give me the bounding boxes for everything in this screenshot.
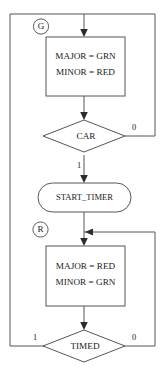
process-box-red-line1: MAJOR = RED (56, 261, 116, 271)
edge-label-timed-true: 1 (33, 333, 37, 342)
flowchart-page: G MAJOR = GRN MINOR = RED CAR 0 1 START_… (0, 0, 168, 372)
state-badge-g-label: G (38, 21, 45, 31)
edge-label-car-false: 0 (132, 123, 136, 132)
process-box-green-line2: MINOR = RED (56, 67, 115, 77)
arrowhead-into-green-box (80, 29, 88, 37)
arrowhead-into-start-timer (80, 175, 88, 183)
process-box-green-line1: MAJOR = GRN (55, 51, 116, 61)
edge-label-car-true: 1 (77, 161, 81, 170)
process-box-red-line2: MINOR = GRN (56, 277, 116, 287)
flowchart-canvas: G MAJOR = GRN MINOR = RED CAR 0 1 START_… (0, 0, 168, 372)
arrowhead-into-timed (80, 322, 88, 330)
state-badge-r-label: R (37, 224, 43, 234)
arrowhead-merge-timed-false (85, 228, 93, 235)
process-box-red (46, 246, 125, 306)
decision-diamond-car-label: CAR (77, 131, 97, 141)
arrowhead-into-red-box (80, 238, 88, 246)
edge-label-timed-false: 0 (132, 333, 136, 342)
decision-diamond-timed-label: TIMED (70, 341, 99, 351)
arrowhead-into-car (80, 112, 88, 120)
terminator-start-timer-label: START_TIMER (56, 192, 113, 202)
